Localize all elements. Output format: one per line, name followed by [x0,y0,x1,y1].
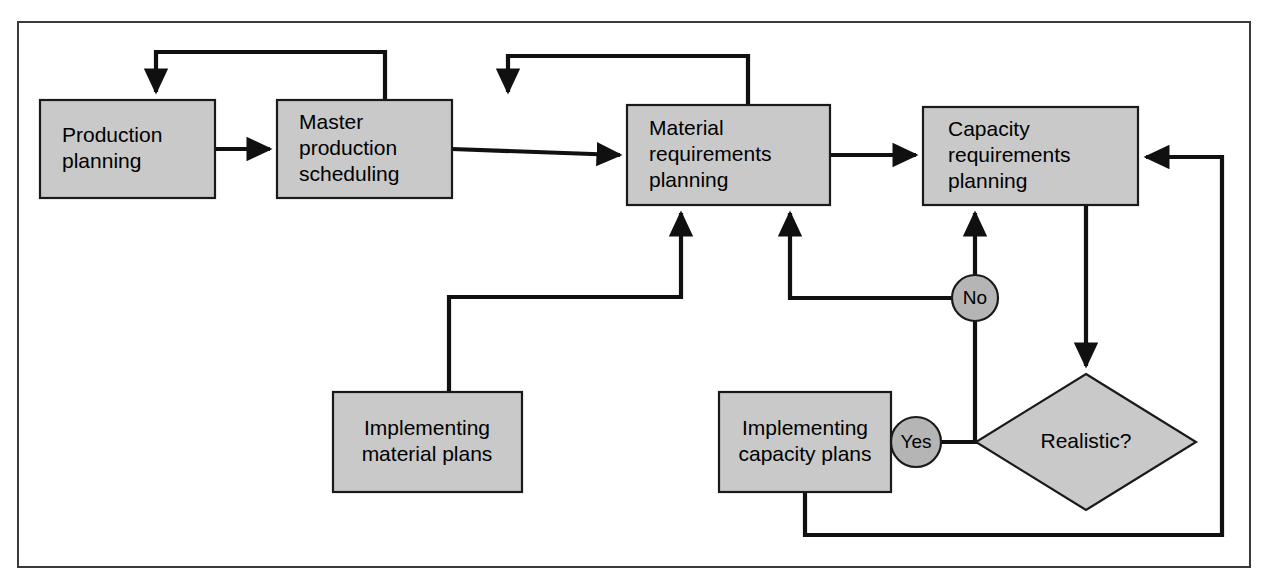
node-implementing-material-plans[interactable]: Implementingmaterial plans [333,392,522,492]
node-label-implementing-capacity-plans: Implementing [742,416,868,439]
node-label-capacity-requirements-planning: planning [948,169,1027,192]
node-label-material-requirements-planning: planning [649,168,728,191]
connector-yes-connector[interactable]: Yes [891,417,941,467]
edge-material-feedback-to-master [508,56,748,105]
node-label-material-requirements-planning: Material [649,116,724,139]
flowchart-diagram: ProductionplanningMasterproductionschedu… [0,0,1274,577]
node-label-implementing-capacity-plans: capacity plans [738,442,871,465]
node-label-capacity-requirements-planning: Capacity [948,117,1030,140]
node-capacity-requirements-planning[interactable]: Capacityrequirementsplanning [923,107,1138,205]
node-label-implementing-material-plans: Implementing [364,416,490,439]
node-label-material-requirements-planning: requirements [649,142,772,165]
connector-label-no-connector: No [963,287,987,308]
edge-master-feedback-to-production [156,52,385,100]
node-label-production-planning: planning [62,149,141,172]
edge-master-to-material [452,149,620,155]
node-label-implementing-material-plans: material plans [362,442,493,465]
node-production-planning[interactable]: Productionplanning [40,100,215,198]
connector-no-connector[interactable]: No [952,275,998,321]
node-label-production-planning: Production [62,123,162,146]
connector-label-yes-connector: Yes [901,431,932,452]
node-master-production-scheduling[interactable]: Masterproductionscheduling [277,100,452,198]
edge-no-to-material-requirements [790,213,952,298]
flowchart-canvas: ProductionplanningMasterproductionschedu… [0,0,1274,577]
edge-material-plans-to-material-requirements [449,213,681,392]
decision-layer: Realistic? [976,374,1196,510]
node-material-requirements-planning[interactable]: Materialrequirementsplanning [627,105,830,205]
node-label-master-production-scheduling: Master [299,110,363,133]
node-realistic-decision[interactable]: Realistic? [976,374,1196,510]
node-label-capacity-requirements-planning: requirements [948,143,1071,166]
node-implementing-capacity-plans[interactable]: Implementingcapacity plans [719,392,891,492]
decision-label: Realistic? [1040,429,1131,452]
node-label-master-production-scheduling: production [299,136,397,159]
node-label-master-production-scheduling: scheduling [299,162,399,185]
